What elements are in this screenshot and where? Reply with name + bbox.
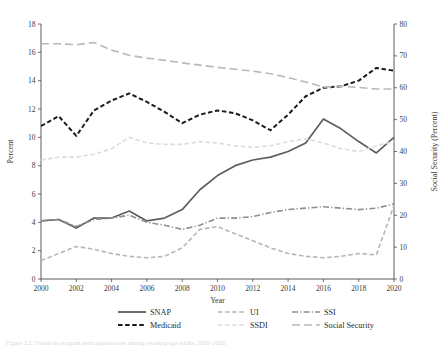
left-axis-tick-label: 6	[32, 190, 36, 199]
bottom-axis-tick-label: 2012	[245, 284, 260, 293]
legend-label-medicaid: Medicaid	[150, 321, 181, 330]
left-axis-title: Percent	[6, 139, 15, 164]
right-axis-tick-label: 60	[400, 83, 408, 92]
series-line-snap	[41, 119, 394, 228]
right-axis-title: Social Security (Percent)	[430, 111, 439, 191]
bottom-axis-tick-label: 2018	[351, 284, 366, 293]
series-line-ui	[41, 205, 394, 260]
bottom-axis-tick-label: 2010	[210, 284, 225, 293]
bottom-axis-tick-label: 2020	[387, 284, 402, 293]
series-line-ssi	[41, 204, 394, 230]
left-axis-tick-label: 8	[32, 161, 36, 170]
bottom-axis-tick-label: 2006	[139, 284, 154, 293]
right-axis-tick-label: 70	[400, 51, 408, 60]
bottom-axis-tick-label: 2002	[69, 284, 84, 293]
right-axis-tick-label: 30	[400, 179, 408, 188]
left-axis-tick-label: 10	[28, 133, 36, 142]
bottom-axis-tick-label: 2008	[175, 284, 190, 293]
left-axis-tick-label: 0	[32, 275, 36, 284]
left-axis-tick-label: 14	[28, 76, 36, 85]
series-line-social-security	[41, 42, 394, 89]
figure-container: 0246810121416180102030405060708020002002…	[0, 0, 448, 353]
series-line-ssdi	[41, 137, 394, 160]
legend-label-ui: UI	[250, 308, 259, 317]
left-axis-tick-label: 12	[28, 105, 36, 114]
right-axis-tick-label: 20	[400, 211, 408, 220]
series-line-medicaid	[41, 68, 394, 136]
legend-label-social-security: Social Security	[324, 321, 375, 330]
line-chart: 0246810121416180102030405060708020002002…	[0, 0, 448, 353]
x-axis-title: Year	[210, 296, 225, 305]
bottom-axis-tick-label: 2004	[104, 284, 119, 293]
legend-label-ssi: SSI	[324, 308, 336, 317]
right-axis-tick-label: 80	[400, 20, 408, 29]
right-axis-tick-label: 0	[400, 275, 404, 284]
bottom-axis-tick-label: 2000	[34, 284, 49, 293]
legend-label-snap: SNAP	[150, 308, 171, 317]
left-axis-tick-label: 4	[32, 218, 36, 227]
right-axis-tick-label: 10	[400, 243, 408, 252]
legend-label-ssdi: SSDI	[250, 321, 268, 330]
left-axis-tick-label: 2	[32, 246, 36, 255]
right-axis-tick-label: 50	[400, 115, 408, 124]
bottom-axis-tick-label: 2014	[281, 284, 296, 293]
figure-caption: Figure 2.2: Trends in program participat…	[6, 339, 442, 346]
left-axis-tick-label: 16	[28, 48, 36, 57]
left-axis-tick-label: 18	[28, 20, 36, 29]
right-axis-tick-label: 40	[400, 147, 408, 156]
bottom-axis-tick-label: 2016	[316, 284, 331, 293]
